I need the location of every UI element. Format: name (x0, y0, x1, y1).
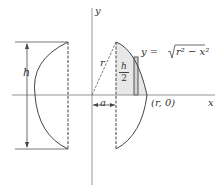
y-axis-label: y (95, 6, 101, 16)
left-arc (34, 42, 68, 149)
radius-label: r (100, 58, 105, 68)
fraction-numerator: h (121, 61, 127, 71)
diagram-svg (0, 0, 223, 185)
height-arrow-top (25, 43, 29, 49)
offset-arrow-right (110, 103, 115, 107)
height-label: h (23, 67, 30, 78)
equation-radicand: r² − x² (176, 47, 209, 57)
radius-line (92, 42, 116, 95)
equation-lhs: y = (141, 47, 158, 57)
x-axis-label: x (208, 98, 214, 108)
half-height-fraction: h 2 (119, 62, 129, 83)
fraction-denominator: 2 (121, 73, 127, 83)
offset-label: a (100, 98, 106, 108)
height-arrow-bottom (25, 142, 29, 148)
offset-arrow-left (93, 103, 98, 107)
diagram-canvas: y x h r a h 2 (r, 0) y = r² − x² (0, 0, 223, 185)
point-label: (r, 0) (151, 98, 175, 108)
